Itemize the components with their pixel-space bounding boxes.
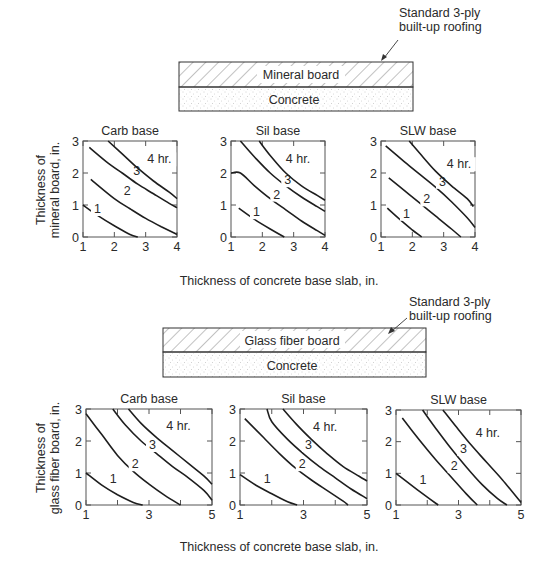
curve-label: 4 hr. bbox=[166, 419, 190, 433]
y-tick-label: 0 bbox=[370, 231, 377, 245]
y-tick-label: 0 bbox=[75, 499, 82, 513]
x-tick-label: 3 bbox=[300, 508, 307, 522]
chart-title: Carb base bbox=[120, 392, 178, 406]
svg-text:glass fiber board, in.: glass fiber board, in. bbox=[48, 402, 62, 515]
svg-text:Thickness of: Thickness of bbox=[34, 154, 48, 225]
curve-label: 2 bbox=[451, 459, 458, 473]
y-tick-label: 0 bbox=[229, 499, 236, 513]
chart-title: SLW base bbox=[430, 393, 487, 407]
y-tick-label: 1 bbox=[370, 199, 377, 213]
curve-label: 4 hr. bbox=[147, 152, 171, 166]
section-1-x-axis-label: Thickness of concrete base slab, in. bbox=[180, 274, 379, 288]
curve-label: 1 bbox=[403, 207, 410, 221]
roofing-arrow-line bbox=[384, 40, 398, 58]
x-tick-label: 3 bbox=[290, 240, 297, 254]
chart-title: Sil base bbox=[256, 124, 301, 138]
y-tick-label: 2 bbox=[229, 435, 236, 449]
curve-label: 1 bbox=[110, 472, 117, 486]
glass-fiber-board-assembly-diagram: Standard 3-ply built-up roofing Glass fi… bbox=[163, 295, 492, 377]
x-tick-label: 2 bbox=[259, 240, 266, 254]
y-tick-label: 1 bbox=[229, 467, 236, 481]
x-tick-label: 4 bbox=[174, 240, 181, 254]
x-tick-label: 4 bbox=[472, 240, 479, 254]
x-tick-label: 1 bbox=[228, 240, 235, 254]
x-tick-label: 1 bbox=[393, 508, 400, 522]
x-tick-label: 4 bbox=[322, 240, 329, 254]
x-tick-label: 1 bbox=[237, 508, 244, 522]
x-tick-label: 1 bbox=[80, 240, 87, 254]
curve-label: 1 bbox=[253, 205, 260, 219]
y-tick-label: 3 bbox=[72, 135, 79, 149]
chart-panel-mineral-carb: Carb base123401231234 hr. bbox=[72, 124, 180, 254]
y-tick-label: 0 bbox=[385, 499, 392, 513]
rating-curve-3 bbox=[113, 409, 212, 500]
y-tick-label: 2 bbox=[72, 167, 79, 181]
x-tick-label: 3 bbox=[146, 508, 153, 522]
y-tick-label: 0 bbox=[220, 231, 227, 245]
plot-frame bbox=[381, 141, 475, 237]
curve-label: 2 bbox=[124, 184, 131, 198]
x-tick-label: 1 bbox=[378, 240, 385, 254]
concrete-label: Concrete bbox=[269, 93, 320, 107]
chart-title: Carb base bbox=[101, 124, 159, 138]
y-tick-label: 3 bbox=[385, 404, 392, 418]
x-tick-label: 5 bbox=[364, 508, 371, 522]
x-tick-label: 2 bbox=[409, 240, 416, 254]
x-tick-label: 5 bbox=[518, 508, 525, 522]
y-tick-label: 3 bbox=[75, 403, 82, 417]
roofing-note-line-1: Standard 3-ply bbox=[399, 6, 481, 20]
curve-label: 2 bbox=[423, 192, 430, 206]
x-tick-label: 1 bbox=[83, 508, 90, 522]
rating-curve-3 bbox=[423, 410, 507, 505]
roofing-note-line-1: Standard 3-ply bbox=[409, 295, 491, 309]
mineral-board-label: Mineral board bbox=[263, 68, 339, 82]
fire-rating-figure: Standard 3-ply built-up roofing Mineral … bbox=[0, 0, 553, 574]
curve-label: 2 bbox=[132, 457, 139, 471]
y-tick-label: 3 bbox=[220, 135, 227, 149]
rating-curve-2 bbox=[402, 418, 477, 505]
x-tick-label: 5 bbox=[209, 508, 216, 522]
y-tick-label: 1 bbox=[385, 467, 392, 481]
section-2-y-axis-label: Thickness of glass fiber board, in. bbox=[34, 402, 62, 515]
y-tick-label: 1 bbox=[72, 199, 79, 213]
svg-text:mineral board, in.: mineral board, in. bbox=[48, 142, 62, 239]
x-tick-label: 3 bbox=[440, 240, 447, 254]
curve-label: 4 hr. bbox=[447, 157, 471, 171]
x-tick-label: 2 bbox=[111, 240, 118, 254]
y-tick-label: 3 bbox=[229, 403, 236, 417]
curve-label: 3 bbox=[460, 442, 467, 456]
glass-fiber-board-label: Glass fiber board bbox=[244, 334, 339, 348]
roofing-note-line-2: built-up roofing bbox=[399, 20, 482, 34]
curve-label: 2 bbox=[299, 457, 306, 471]
section-1-y-axis-label: Thickness of mineral board, in. bbox=[34, 142, 62, 239]
curve-label: 4 hr. bbox=[286, 152, 310, 166]
y-tick-label: 1 bbox=[220, 199, 227, 213]
y-tick-label: 2 bbox=[370, 167, 377, 181]
curve-label: 2 bbox=[273, 188, 280, 202]
y-tick-label: 2 bbox=[385, 435, 392, 449]
x-tick-label: 3 bbox=[142, 240, 149, 254]
rating-curve-1 bbox=[239, 208, 284, 237]
curve-label: 1 bbox=[264, 472, 271, 486]
y-tick-label: 1 bbox=[75, 467, 82, 481]
y-tick-label: 3 bbox=[370, 135, 377, 149]
chart-panel-glass-fiber-carb: Carb base13501231234 hr. bbox=[75, 392, 215, 522]
y-tick-label: 2 bbox=[75, 435, 82, 449]
section-2-x-axis-label: Thickness of concrete base slab, in. bbox=[180, 540, 379, 554]
y-tick-label: 0 bbox=[72, 231, 79, 245]
curve-label: 4 hr. bbox=[313, 420, 337, 434]
chart-panel-glass-fiber-slw: SLW base13501231234 hr. bbox=[385, 393, 524, 522]
chart-title: Sil base bbox=[281, 392, 326, 406]
chart-panel-mineral-sil: Sil base123401231234 hr. bbox=[220, 124, 328, 254]
rating-curve-4hr bbox=[443, 410, 521, 503]
x-tick-label: 3 bbox=[455, 508, 462, 522]
curve-label: 1 bbox=[94, 202, 101, 216]
mineral-board-assembly-diagram: Standard 3-ply built-up roofing Mineral … bbox=[179, 6, 482, 111]
chart-panel-glass-fiber-sil: Sil base13501231234 hr. bbox=[229, 392, 370, 522]
chart-title: SLW base bbox=[400, 124, 457, 138]
chart-panel-mineral-slw: SLW base123401231234 hr. bbox=[370, 124, 478, 254]
roofing-note-line-2: built-up roofing bbox=[409, 309, 492, 323]
curve-label: 1 bbox=[419, 473, 426, 487]
svg-text:Thickness of: Thickness of bbox=[34, 422, 48, 493]
curve-label: 4 hr. bbox=[476, 426, 500, 440]
